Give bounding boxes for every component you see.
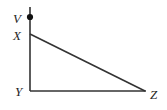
point-marker-v — [27, 14, 33, 20]
geometry-canvas: VXYZ — [0, 0, 167, 110]
labels-group: VXYZ — [12, 11, 158, 102]
vertex-label-z: Z — [150, 87, 158, 102]
markers-group — [27, 14, 33, 20]
hypotenuse-x-to-z — [30, 34, 145, 91]
vertex-label-y: Y — [15, 84, 24, 99]
segments-group — [30, 7, 146, 91]
vertex-label-v: V — [13, 11, 23, 26]
geometry-figure: VXYZ — [0, 0, 167, 110]
vertex-label-x: X — [12, 28, 22, 43]
